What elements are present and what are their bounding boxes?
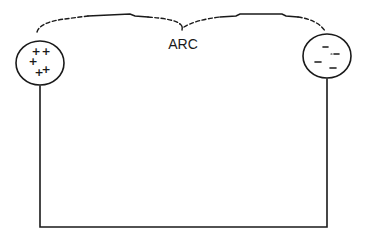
circuit-wire — [40, 79, 327, 227]
arc-label: ARC — [168, 36, 198, 52]
positive-charge: + — [41, 45, 50, 58]
positive-electrode: + + + + + — [16, 41, 64, 85]
negative-electrode — [303, 34, 351, 78]
arc-circuit-diagram: ARC + + + + + — [0, 0, 366, 241]
spark-arc — [37, 14, 325, 32]
positive-charge: + — [41, 63, 50, 76]
